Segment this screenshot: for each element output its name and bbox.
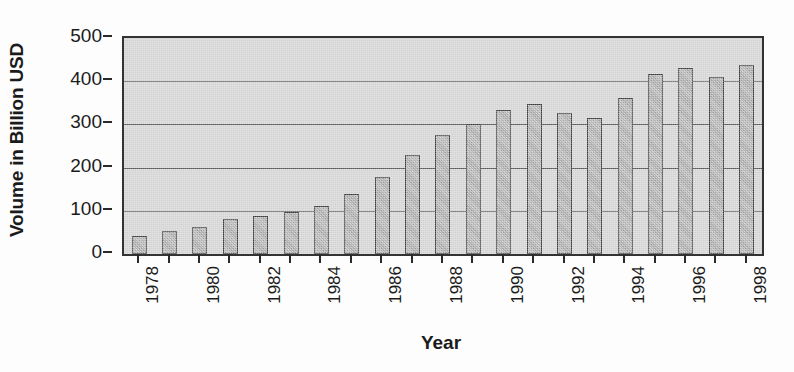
x-tick-mark [714, 254, 716, 263]
x-axis-title: Year [122, 332, 760, 354]
x-tick-mark [684, 254, 686, 263]
bar [527, 104, 542, 254]
x-tick-mark [563, 254, 565, 263]
y-tick-label: 0 [91, 241, 102, 263]
y-tick-label: 500 [70, 25, 102, 47]
y-tick-label: 100 [70, 198, 102, 220]
x-tick-label: 1982 [265, 266, 285, 304]
bar [587, 118, 602, 254]
bar [648, 74, 663, 254]
bar [709, 77, 724, 254]
x-tick-mark [137, 254, 139, 263]
plot-area [122, 36, 764, 256]
y-tick-mark [103, 121, 112, 123]
x-tick-label: 1996 [690, 266, 710, 304]
x-tick-label: 1984 [325, 266, 345, 304]
y-tick-mark [103, 251, 112, 253]
x-tick-mark [319, 254, 321, 263]
x-tick-mark [411, 254, 413, 263]
x-tick-label: 1998 [751, 266, 771, 304]
y-axis-title: Volume in Billion USD [6, 43, 28, 237]
bar-chart-figure: Volume in Billion USD 0100200300400500 1… [0, 0, 794, 372]
bar [405, 155, 420, 254]
x-tick-label: 1988 [447, 266, 467, 304]
x-tick-mark [350, 254, 352, 263]
x-tick-mark [228, 254, 230, 263]
x-tick-mark [623, 254, 625, 263]
bar [466, 124, 481, 254]
bar [223, 219, 238, 254]
y-axis-ticks: 0100200300400500 [34, 28, 112, 260]
x-tick-mark [745, 254, 747, 263]
bar [314, 206, 329, 254]
bar [678, 68, 693, 254]
bar [284, 212, 299, 254]
y-tick-label: 300 [70, 111, 102, 133]
x-tick-label: 1990 [508, 266, 528, 304]
x-tick-mark [502, 254, 504, 263]
bar [496, 110, 511, 254]
bar [557, 113, 572, 254]
x-tick-label: 1980 [204, 266, 224, 304]
x-tick-mark [654, 254, 656, 263]
x-tick-mark [532, 254, 534, 263]
y-tick-mark [103, 78, 112, 80]
bar [162, 231, 177, 254]
x-tick-label: 1992 [569, 266, 589, 304]
bar [132, 236, 147, 254]
bar [435, 135, 450, 254]
bar [375, 177, 390, 254]
y-tick-label: 400 [70, 68, 102, 90]
y-tick-mark [103, 165, 112, 167]
y-tick-mark [103, 208, 112, 210]
x-axis-tick-labels: 1978198019821984198619881990199219941996… [122, 266, 760, 326]
x-tick-label: 1994 [629, 266, 649, 304]
bar-series [124, 38, 762, 254]
x-axis-ticks [122, 254, 760, 264]
y-tick-label: 200 [70, 155, 102, 177]
x-tick-mark [380, 254, 382, 263]
x-tick-mark [471, 254, 473, 263]
bar [192, 227, 207, 254]
x-tick-mark [441, 254, 443, 263]
bar [253, 216, 268, 254]
x-tick-label: 1978 [143, 266, 163, 304]
x-tick-mark [593, 254, 595, 263]
bar [344, 194, 359, 254]
x-tick-mark [198, 254, 200, 263]
bar [618, 98, 633, 254]
x-tick-mark [289, 254, 291, 263]
y-tick-mark [103, 35, 112, 37]
bar [739, 65, 754, 254]
x-tick-label: 1986 [386, 266, 406, 304]
x-tick-mark [168, 254, 170, 263]
y-axis-title-container: Volume in Billion USD [0, 0, 34, 280]
x-tick-mark [259, 254, 261, 263]
